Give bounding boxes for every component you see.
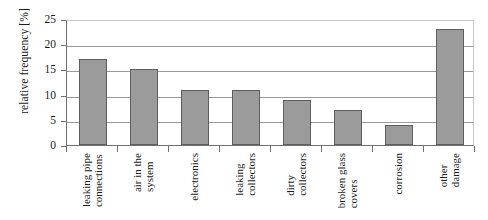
x-axis-tick bbox=[474, 146, 475, 152]
bar bbox=[181, 90, 209, 145]
x-axis-label: electronics bbox=[168, 153, 219, 217]
x-axis-label-line: damage bbox=[449, 153, 461, 187]
x-axis-label: leakingcollectors bbox=[219, 153, 270, 217]
plot-area bbox=[66, 20, 474, 146]
x-axis-label-text: broken glasscovers bbox=[334, 153, 359, 208]
x-axis-label-line: other bbox=[436, 153, 448, 187]
x-axis-label-text: leakingcollectors bbox=[232, 153, 257, 196]
x-axis-tick bbox=[423, 146, 424, 152]
x-axis-label-line: covers bbox=[347, 153, 359, 208]
y-axis-label: 20 bbox=[22, 39, 56, 51]
x-axis-tick bbox=[168, 146, 169, 152]
bar bbox=[79, 59, 107, 145]
x-axis-label-text: dirtycollectors bbox=[283, 153, 308, 196]
x-axis-tick bbox=[66, 146, 67, 152]
bar-series bbox=[67, 21, 473, 145]
x-axis-label: corrosion bbox=[372, 153, 423, 217]
x-axis-label-line: leaking bbox=[232, 153, 244, 196]
x-axis-label: leaking pipeconnections bbox=[66, 153, 117, 217]
x-axis-label-line: leaking pipe bbox=[79, 153, 91, 207]
bar bbox=[232, 90, 260, 145]
y-axis-label: 25 bbox=[22, 14, 56, 26]
bar bbox=[283, 100, 311, 145]
x-axis-label-line: collectors bbox=[296, 153, 308, 196]
x-axis-tick bbox=[219, 146, 220, 152]
x-axis-label-text: otherdamage bbox=[436, 153, 461, 187]
x-axis-label-text: electronics bbox=[187, 153, 199, 201]
bar bbox=[436, 29, 464, 145]
bar bbox=[130, 69, 158, 145]
x-axis-label-line: system bbox=[143, 153, 155, 192]
x-axis-label-line: dirty bbox=[283, 153, 295, 196]
y-axis-label: 10 bbox=[22, 90, 56, 102]
bar bbox=[385, 125, 413, 145]
x-axis-label-line: collectors bbox=[245, 153, 257, 196]
y-axis-label: 0 bbox=[22, 140, 56, 152]
x-axis-label-line: air in the bbox=[130, 153, 142, 192]
x-axis-tick bbox=[372, 146, 373, 152]
bar-chart: relative frequency [%] 0510152025 leakin… bbox=[0, 0, 488, 220]
x-axis-tick bbox=[117, 146, 118, 152]
x-axis-label: broken glasscovers bbox=[321, 153, 372, 217]
bar bbox=[334, 110, 362, 145]
x-axis-label: dirtycollectors bbox=[270, 153, 321, 217]
x-axis-label-line: broken glass bbox=[334, 153, 346, 208]
x-axis-label-line: connections bbox=[92, 153, 104, 207]
x-axis-label-text: corrosion bbox=[391, 153, 403, 195]
x-axis-tick bbox=[270, 146, 271, 152]
x-axis-label: otherdamage bbox=[423, 153, 474, 217]
x-axis-label-text: leaking pipeconnections bbox=[79, 153, 104, 207]
x-axis-label-line: corrosion bbox=[391, 153, 403, 195]
x-axis-tick bbox=[321, 146, 322, 152]
x-axis-label-text: air in thesystem bbox=[130, 153, 155, 192]
y-axis-label: 15 bbox=[22, 64, 56, 76]
y-axis-label: 5 bbox=[22, 115, 56, 127]
x-axis-label: air in thesystem bbox=[117, 153, 168, 217]
x-axis-label-line: electronics bbox=[187, 153, 199, 201]
